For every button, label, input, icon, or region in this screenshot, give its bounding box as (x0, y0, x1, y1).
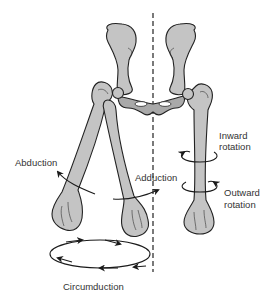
left-femoral-head (113, 88, 124, 99)
label-adduction: Adduction (135, 172, 177, 183)
label-inward-rotation-2: rotation (219, 141, 251, 152)
middle-femur-adducted (103, 100, 148, 237)
label-outward-rotation-1: Outward (224, 187, 260, 198)
right-ilium-bone (166, 23, 196, 94)
label-abduction: Abduction (15, 157, 57, 168)
right-obturator-foramen (159, 102, 171, 107)
right-femur-rotation (184, 84, 214, 234)
pelvis-pubis (118, 96, 185, 115)
adduction-arrow (113, 190, 158, 199)
left-ilium-bone (107, 23, 137, 94)
label-circumduction: Circumduction (63, 281, 124, 292)
circumduction-ellipse (50, 240, 150, 268)
left-obturator-foramen (135, 102, 147, 107)
label-inward-rotation-1: Inward (219, 130, 248, 141)
label-outward-rotation-2: rotation (224, 199, 256, 210)
right-femoral-head (183, 89, 194, 100)
